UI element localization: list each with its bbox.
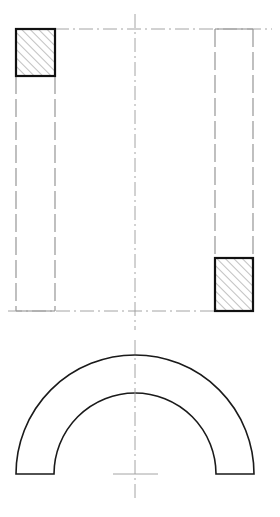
- left-leg-hidden-outline: [16, 76, 55, 311]
- technical-drawing-svg: [0, 0, 280, 517]
- elevation-view: [8, 14, 272, 330]
- right-bottom-section: [215, 258, 253, 311]
- right-bottom-section-fill: [215, 258, 253, 311]
- right-leg-hidden-outline: [215, 29, 253, 258]
- plan-view: [16, 340, 254, 500]
- drawing-canvas: [0, 0, 280, 517]
- left-top-section-fill: [16, 29, 55, 76]
- left-top-section: [16, 29, 55, 76]
